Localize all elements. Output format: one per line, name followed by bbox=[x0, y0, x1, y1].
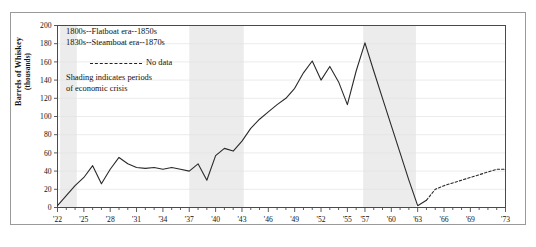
x-tick-label: '31 bbox=[132, 215, 141, 224]
x-tick-label: '46 bbox=[264, 215, 273, 224]
gridline-group bbox=[58, 26, 506, 190]
y-tick-label: 100 bbox=[40, 112, 52, 121]
x-tick-label: '25 bbox=[79, 215, 88, 224]
y-tick-label: 40 bbox=[44, 167, 52, 176]
x-tick-label: '34 bbox=[158, 215, 167, 224]
y-tick-label: 140 bbox=[40, 76, 52, 85]
legend-steamboat-era: 1830s--Steamboat era--1870s bbox=[66, 38, 165, 49]
x-tick-label: '60 bbox=[387, 215, 396, 224]
y-tick-label: 160 bbox=[40, 58, 52, 67]
y-tick-label: 120 bbox=[40, 94, 52, 103]
legend-shading-line-2: of economic crisis bbox=[66, 84, 152, 95]
x-tick-label: '49 bbox=[290, 215, 299, 224]
legend-no-data: No data bbox=[90, 58, 172, 69]
x-tick-label: '22 bbox=[53, 215, 62, 224]
x-tick-group: '22'25'28'31'34'37'40'43'46'49'52'55'57'… bbox=[53, 208, 510, 224]
legend-eras: 1800s--Flatboat era--1850s 1830s--Steamb… bbox=[66, 27, 165, 48]
y-tick-label: 180 bbox=[40, 39, 52, 48]
x-tick-label: '69 bbox=[466, 215, 475, 224]
x-tick-label: '28 bbox=[106, 215, 115, 224]
x-tick-label: '73 bbox=[501, 215, 510, 224]
dashed-line-icon bbox=[90, 63, 142, 64]
data-line bbox=[426, 169, 505, 200]
y-tick-label: 200 bbox=[40, 21, 52, 30]
x-tick-label: '63 bbox=[413, 215, 422, 224]
x-tick-label: '40 bbox=[211, 215, 220, 224]
legend-shading-line-1: Shading indicates periods bbox=[66, 73, 152, 84]
x-tick-label: '52 bbox=[317, 215, 326, 224]
y-tick-label: 0 bbox=[48, 203, 52, 212]
legend-no-data-label: No data bbox=[146, 58, 172, 69]
y-tick-label: 80 bbox=[44, 130, 52, 139]
x-tick-label: '37 bbox=[185, 215, 194, 224]
x-tick-label: '66 bbox=[440, 215, 449, 224]
x-tick-label: '57 bbox=[360, 215, 369, 224]
chart-figure: Barrels of Whiskey (thousands) 020406080… bbox=[0, 0, 536, 247]
legend-flatboat-era: 1800s--Flatboat era--1850s bbox=[66, 27, 165, 38]
y-tick-label: 20 bbox=[44, 185, 52, 194]
y-tick-group: 020406080100120140160180200 bbox=[40, 21, 57, 212]
x-tick-label: '43 bbox=[237, 215, 246, 224]
y-tick-label: 60 bbox=[44, 149, 52, 158]
legend-shading-note: Shading indicates periods of economic cr… bbox=[66, 73, 152, 94]
x-tick-label: '55 bbox=[343, 215, 352, 224]
